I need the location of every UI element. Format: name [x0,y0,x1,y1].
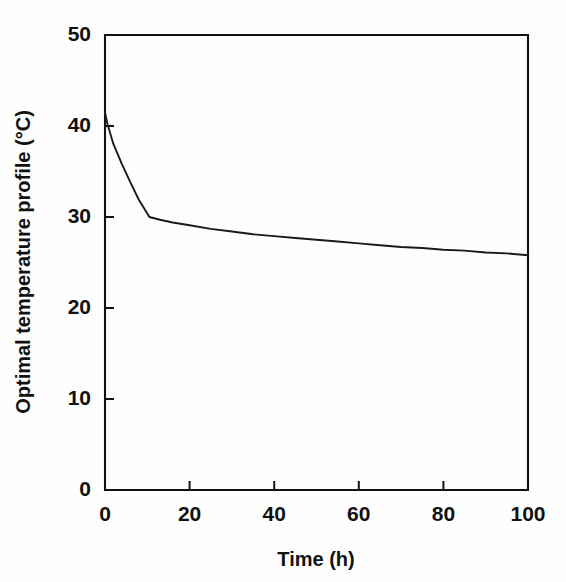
x-tick-label-40: 40 [263,502,286,525]
data-series-group [105,112,528,255]
x-axis-title: Time (h) [277,548,354,570]
tick-marks-group [105,126,443,490]
plot-frame [105,35,528,490]
y-tick-label-50: 50 [68,22,91,45]
x-tick-label-60: 60 [347,502,370,525]
data-series-0 [105,112,528,255]
y-tick-label-30: 30 [68,204,91,227]
y-axis-title: Optimal temperature profile (°C) [12,110,34,414]
y-tick-label-20: 20 [68,295,91,318]
tick-labels-group: 01020304050020406080100 [68,22,546,526]
x-tick-label-100: 100 [510,502,545,525]
y-tick-label-10: 10 [68,386,91,409]
y-tick-label-0: 0 [79,477,91,500]
temperature-profile-chart: 01020304050020406080100 Time (h) Optimal… [0,0,566,582]
axes-group [105,35,528,490]
y-tick-label-40: 40 [68,113,91,136]
x-tick-label-80: 80 [432,502,455,525]
figure-container: 01020304050020406080100 Time (h) Optimal… [0,0,566,582]
x-tick-label-0: 0 [99,502,111,525]
x-tick-label-20: 20 [178,502,201,525]
